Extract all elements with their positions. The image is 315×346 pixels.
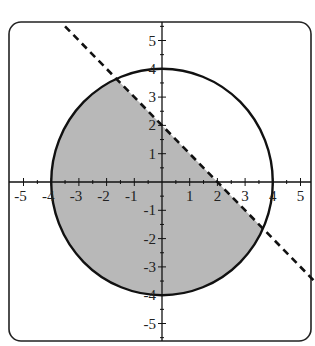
x-tick-label: 3 [241,188,249,204]
y-tick-label: -3 [144,259,157,275]
x-tick-label: 1 [186,188,194,204]
y-tick-label: 4 [149,61,157,77]
y-tick-label: -2 [144,231,157,247]
x-tick-label: -3 [70,188,83,204]
y-tick-label: 3 [149,89,157,105]
x-tick-label: 4 [269,188,277,204]
x-tick-label: -1 [125,188,138,204]
x-tick-label: -5 [14,188,27,204]
x-tick-label: -2 [97,188,110,204]
y-tick-label: 5 [149,33,157,49]
x-tick-label: 5 [297,188,305,204]
y-tick-label: -5 [144,316,157,332]
y-tick-label: 1 [149,146,157,162]
y-tick-label: -1 [144,202,157,218]
y-tick-label: -4 [144,287,157,303]
x-tick-label: -4 [42,188,55,204]
chart-canvas: -5-4-3-2-11234554321-1-2-3-4-5 [0,0,315,346]
x-tick-label: 2 [214,188,222,204]
y-tick-label: 2 [149,117,157,133]
